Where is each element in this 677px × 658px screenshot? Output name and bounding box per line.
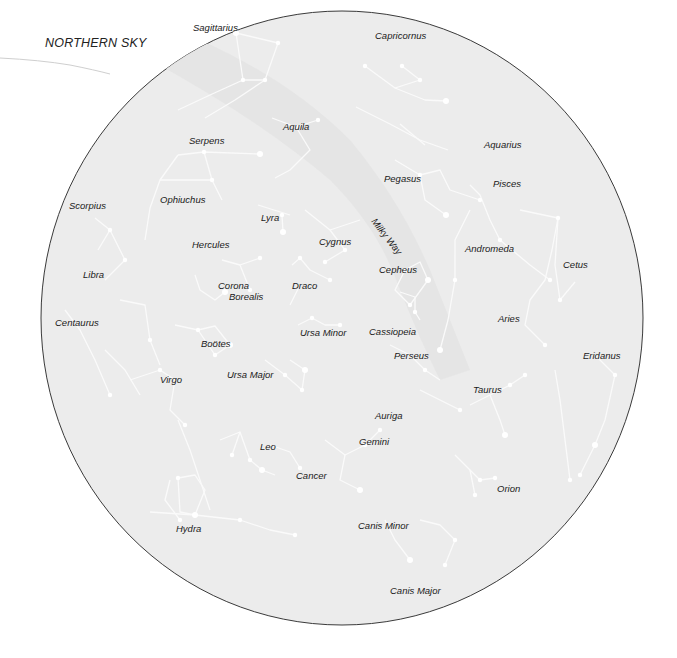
star-icon <box>108 228 112 232</box>
star-icon <box>328 278 332 282</box>
constellation-label-pegasus: Pegasus <box>384 174 421 184</box>
chart-title: NORTHERN SKY <box>45 36 147 50</box>
constellation-label-leo: Leo <box>260 442 276 452</box>
star-icon <box>508 383 512 387</box>
star-icon <box>568 478 572 482</box>
constellation-label-gemini: Gemini <box>359 437 389 447</box>
star-icon <box>316 118 320 122</box>
constellation-label-canis-minor: Canis Minor <box>358 521 409 531</box>
star-icon <box>293 533 297 537</box>
star-icon <box>498 238 502 242</box>
constellation-label-ursa-major: Ursa Major <box>227 370 273 380</box>
constellation-label-ursa-minor: Ursa Minor <box>300 328 346 338</box>
star-icon <box>196 328 200 332</box>
star-icon <box>363 64 367 68</box>
constellation-label-cancer: Cancer <box>296 471 327 481</box>
star-icon <box>323 260 327 264</box>
constellation-label-centaurus: Centaurus <box>55 318 99 328</box>
star-icon <box>453 278 457 282</box>
star-icon <box>473 493 477 497</box>
constellation-label-hercules: Hercules <box>192 240 230 250</box>
constellation-label-libra: Libra <box>83 270 104 280</box>
star-icon <box>613 373 617 377</box>
star-icon <box>230 453 234 457</box>
star-icon <box>108 393 112 397</box>
constellation-label-capricornus: Capricornus <box>375 31 426 41</box>
star-icon <box>310 316 314 320</box>
constellation-label-cygnus: Cygnus <box>319 237 351 247</box>
constellation-label-canis-major: Canis Major <box>390 586 441 596</box>
paper-crease <box>0 58 110 74</box>
constellation-label-pisces: Pisces <box>493 179 521 189</box>
star-icon <box>259 467 265 473</box>
star-icon <box>443 98 449 104</box>
star-icon <box>210 178 214 182</box>
star-icon <box>413 310 417 314</box>
star-icon <box>298 256 302 260</box>
constellation-label-virgo: Virgo <box>160 375 182 385</box>
star-icon <box>556 216 560 220</box>
star-icon <box>183 423 187 427</box>
star-icon <box>202 150 206 154</box>
constellation-label-andromeda: Andromeda <box>465 244 514 254</box>
star-icon <box>300 388 304 392</box>
constellation-label-corona: Corona <box>218 281 249 291</box>
constellation-label-perseus: Perseus <box>394 351 429 361</box>
star-icon <box>178 518 182 522</box>
constellation-label-taurus: Taurus <box>473 385 502 395</box>
star-icon <box>558 298 562 302</box>
star-icon <box>425 277 431 283</box>
star-icon <box>123 258 127 262</box>
star-icon <box>248 458 252 462</box>
star-icon <box>502 432 508 438</box>
constellation-label-hydra: Hydra <box>176 524 201 534</box>
constellation-label-bo-tes: Boötes <box>201 339 231 349</box>
star-icon <box>423 368 427 372</box>
star-icon <box>241 78 245 82</box>
star-icon <box>158 368 162 372</box>
star-icon <box>400 64 404 68</box>
star-icon <box>458 408 462 412</box>
star-icon <box>418 78 422 82</box>
constellation-label-auriga: Auriga <box>375 411 402 421</box>
star-icon <box>176 476 180 480</box>
star-icon <box>548 278 552 282</box>
star-icon <box>478 478 482 482</box>
sky-disc <box>41 11 643 625</box>
constellation-label-sagittarius: Sagittarius <box>193 23 238 33</box>
constellation-label-draco: Draco <box>292 281 317 291</box>
constellation-label-aries: Aries <box>498 314 520 324</box>
star-icon <box>543 343 547 347</box>
star-icon <box>257 151 263 157</box>
star-icon <box>592 442 598 448</box>
star-icon <box>238 518 242 522</box>
star-icon <box>280 213 284 217</box>
constellation-label-cepheus: Cepheus <box>379 265 417 275</box>
star-icon <box>263 78 267 82</box>
star-icon <box>302 367 308 373</box>
star-icon <box>443 212 449 218</box>
constellation-label-aquila: Aquila <box>283 122 309 132</box>
star-icon <box>343 248 347 252</box>
star-icon <box>523 373 527 377</box>
star-icon <box>192 512 198 518</box>
star-icon <box>276 41 280 45</box>
constellation-label-borealis: Borealis <box>229 292 263 302</box>
star-icon <box>280 229 286 235</box>
star-icon <box>578 473 582 477</box>
star-icon <box>453 538 457 542</box>
constellation-label-serpens: Serpens <box>189 136 224 146</box>
constellation-label-scorpius: Scorpius <box>69 201 106 211</box>
star-icon <box>258 256 262 260</box>
star-icon <box>478 198 482 202</box>
star-icon <box>213 353 217 357</box>
star-icon <box>408 303 412 307</box>
star-icon <box>378 428 382 432</box>
star-icon <box>493 476 497 480</box>
star-icon <box>148 338 152 342</box>
constellation-label-ophiuchus: Ophiuchus <box>160 195 205 205</box>
star-icon <box>443 563 447 567</box>
constellation-label-cetus: Cetus <box>563 260 588 270</box>
constellation-label-cassiopeia: Cassiopeia <box>369 327 416 337</box>
constellation-label-lyra: Lyra <box>261 213 279 223</box>
